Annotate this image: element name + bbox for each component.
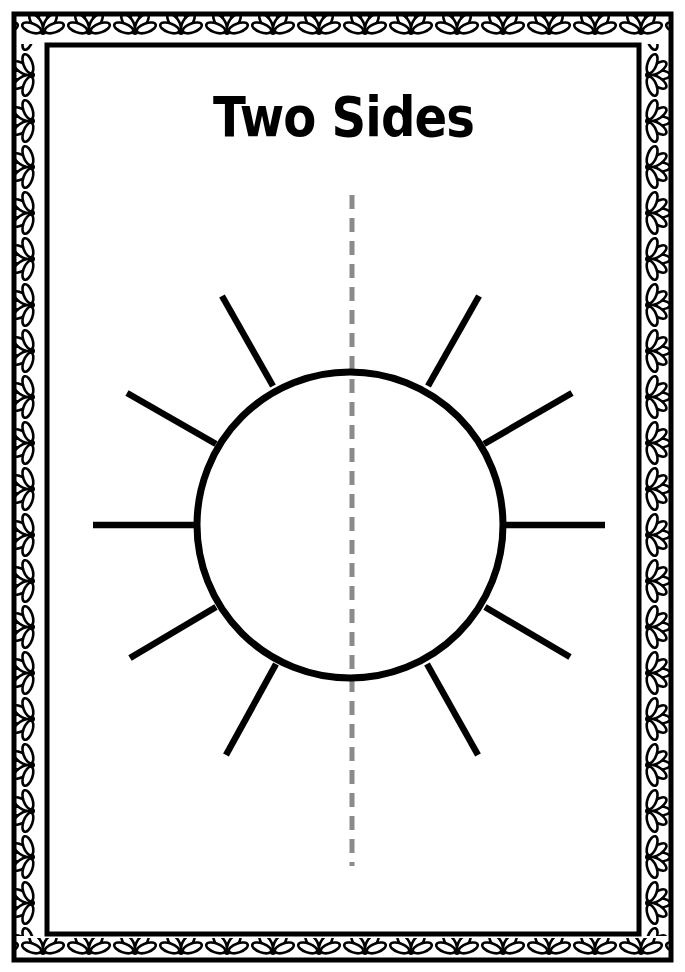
- sun-rays: [93, 296, 605, 755]
- ray-lower-left: [130, 607, 216, 658]
- ray-top-right: [428, 296, 479, 386]
- sun-outline-icon: [0, 0, 685, 972]
- ray-bottom-left: [226, 664, 276, 755]
- worksheet-page: Two Sides: [0, 0, 685, 972]
- ray-lower-right: [485, 607, 570, 657]
- ray-top-left: [222, 296, 273, 386]
- ray-bottom-right: [427, 664, 478, 755]
- ray-upper-left: [127, 393, 216, 444]
- ray-upper-right: [484, 393, 572, 444]
